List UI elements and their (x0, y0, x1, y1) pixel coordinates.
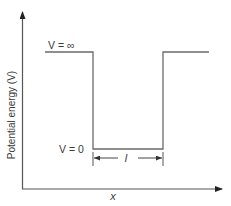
potential-well-diagram: l V = ∞ V = 0 x Potential energy (V) (0, 0, 231, 206)
width-label: l (125, 152, 128, 164)
bottom-potential-label: V = 0 (59, 143, 84, 155)
top-potential-label: V = ∞ (48, 39, 74, 51)
y-axis-label: Potential energy (V) (6, 71, 17, 159)
x-axis-label: x (109, 190, 116, 202)
potential-well-profile (45, 52, 209, 149)
